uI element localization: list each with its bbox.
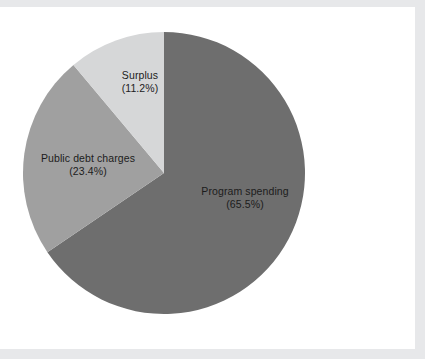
pie-chart-svg [0, 7, 415, 349]
pie-slice-label-program-spending: Program spending (65.5%) [182, 185, 308, 211]
page-frame-bottom-band [0, 349, 425, 359]
pie-slice-label-surplus: Surplus (11.2%) [88, 69, 192, 95]
page-frame-top-band [0, 0, 425, 7]
pie-slice-label-name: Program spending [182, 185, 308, 198]
pie-slice-label-percent: (11.2%) [88, 82, 192, 95]
document-page: Program spending (65.5%) Public debt cha… [0, 7, 415, 349]
pie-slice-label-percent: (23.4%) [20, 165, 156, 178]
pie-slice-label-name: Public debt charges [20, 152, 156, 165]
pie-chart-figure: Program spending (65.5%) Public debt cha… [0, 7, 415, 349]
pie-slice-label-public-debt-charges: Public debt charges (23.4%) [20, 152, 156, 178]
pie-slice-label-name: Surplus [88, 69, 192, 82]
page-frame-right-band [415, 0, 425, 359]
pie-slice-label-percent: (65.5%) [182, 198, 308, 211]
pie-chart-screenshot: Program spending (65.5%) Public debt cha… [0, 0, 425, 359]
